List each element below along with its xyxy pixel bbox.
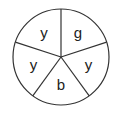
sector-label: b: [57, 76, 65, 93]
sector-label: g: [74, 24, 82, 41]
sector-label: y: [30, 56, 38, 73]
sector-label: y: [40, 24, 48, 41]
sector-divider: [15, 42, 61, 57]
spinner-diagram: gybyy: [0, 0, 115, 118]
sector-divider: [61, 42, 107, 57]
sector-label: y: [85, 56, 93, 73]
